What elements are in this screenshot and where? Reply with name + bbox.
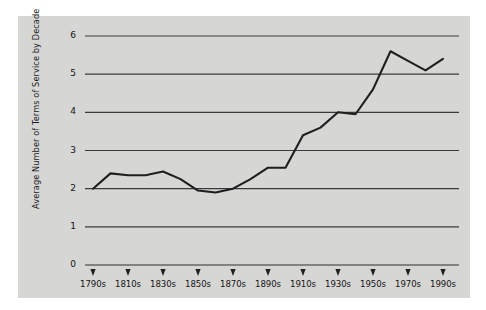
x-tick-marker	[90, 269, 95, 276]
x-tick-marker	[160, 269, 165, 276]
x-tick-marker	[195, 269, 200, 276]
data-series-line	[93, 51, 443, 192]
chart-figure: Average Number of Terms of Service by De…	[0, 0, 486, 310]
x-tick-marker	[370, 269, 375, 276]
x-tick-marker	[405, 269, 410, 276]
gridlines	[85, 36, 459, 227]
x-tick-marker	[125, 269, 130, 276]
x-tick-marker	[335, 269, 340, 276]
x-tick-marker	[265, 269, 270, 276]
line-plot	[0, 0, 486, 310]
x-tick-marker	[440, 269, 445, 276]
x-axis-ticks	[90, 269, 445, 276]
x-tick-marker	[230, 269, 235, 276]
x-tick-marker	[300, 269, 305, 276]
